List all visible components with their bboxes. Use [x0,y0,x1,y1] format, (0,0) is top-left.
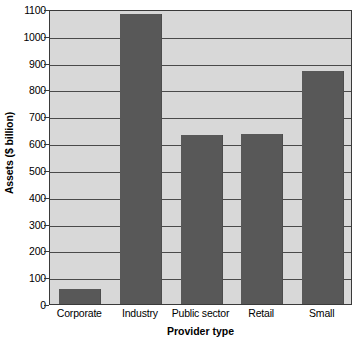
bar [120,14,162,304]
y-axis-tick-label: 0 [18,300,46,310]
x-axis-tick-labels: CorporateIndustryPublic sectorRetailSmal… [49,307,352,323]
plot-area [49,10,352,305]
y-axis-title: Assets ($ billion) [0,0,18,306]
y-axis-tick-label: 1100 [18,5,46,15]
bar [181,135,223,304]
y-axis-tick-label: 900 [18,59,46,69]
x-axis-tick-label: Small [291,307,352,319]
x-axis-tick-label: Corporate [49,307,110,319]
bars-layer [50,11,351,304]
bar [302,71,344,304]
bar-chart: Assets ($ billion) 010020030040050060070… [0,0,359,344]
y-axis-tick-labels: 010020030040050060070080090010001100 [18,0,46,312]
y-axis-tick-label: 200 [18,246,46,256]
x-axis-tick-label: Retail [231,307,292,319]
y-axis-tick-mark [44,305,49,306]
y-axis-title-text: Assets ($ billion) [3,112,15,194]
y-axis-tick-label: 400 [18,193,46,203]
x-axis-tick-label: Industry [110,307,171,319]
y-axis-tick-label: 600 [18,139,46,149]
y-axis-tick-label: 300 [18,220,46,230]
y-axis-tick-label: 1000 [18,32,46,42]
bar [241,134,283,304]
x-axis-title: Provider type [49,325,352,337]
y-axis-tick-label: 100 [18,273,46,283]
y-axis-tick-label: 700 [18,112,46,122]
x-axis-tick-label: Public sector [170,307,231,319]
y-axis-tick-label: 500 [18,166,46,176]
bar [59,289,101,304]
y-axis-tick-label: 800 [18,85,46,95]
